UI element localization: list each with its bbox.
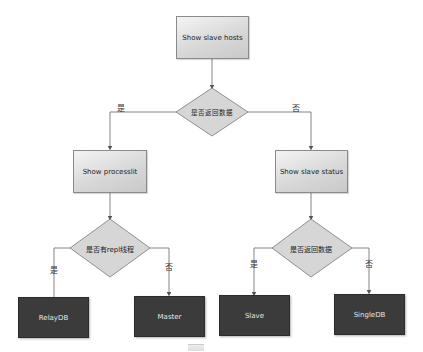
left-process-label: Show processlit — [83, 168, 138, 176]
right-process-label: Show slave status — [280, 168, 343, 176]
decision-left-no-label: 否 — [165, 261, 173, 272]
outcome-master: Master — [134, 296, 205, 337]
decision-left-label: 是否有repl线程 — [86, 244, 134, 254]
decision-1-no-label: 否 — [292, 102, 300, 113]
outcome-singledb: SingleDB — [334, 294, 405, 335]
start-process-label: Show slave hosts — [182, 34, 242, 42]
decision-right-label: 是否返回数据 — [290, 244, 332, 254]
decision-1-label: 是否返回数据 — [191, 107, 233, 117]
outcome-label: RelayDB — [39, 314, 68, 322]
outcome-label: Master — [158, 313, 182, 321]
right-process-box: Show slave status — [275, 150, 348, 193]
decision-right-yes-label: 是 — [250, 258, 258, 269]
outcome-slave: Slave — [219, 295, 290, 336]
outcome-label: Slave — [245, 312, 264, 320]
decision-left-yes-label: 是 — [50, 264, 58, 275]
outcome-relaydb: RelayDB — [18, 297, 89, 338]
outcome-label: SingleDB — [354, 311, 386, 319]
start-process-box: Show slave hosts — [176, 16, 249, 59]
left-process-box: Show processlit — [73, 150, 147, 193]
cropped-image-fragment — [188, 344, 204, 351]
decision-1-yes-label: 是 — [117, 102, 125, 113]
decision-right-no-label: 否 — [365, 258, 373, 269]
